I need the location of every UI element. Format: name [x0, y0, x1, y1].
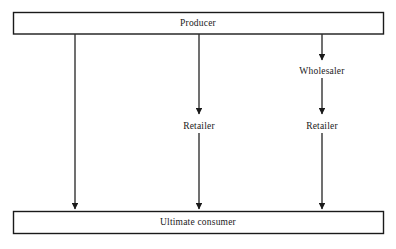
ultimate-consumer-label: Ultimate consumer	[160, 217, 236, 227]
retailer-right-label: Retailer	[303, 121, 341, 132]
wholesaler-label: Wholesaler	[296, 66, 347, 77]
producer-label: Producer	[180, 18, 216, 28]
diagram-canvas: Producer Wholesaler Retailer Retailer Ul…	[0, 0, 396, 249]
retailer-middle-label: Retailer	[180, 121, 218, 132]
